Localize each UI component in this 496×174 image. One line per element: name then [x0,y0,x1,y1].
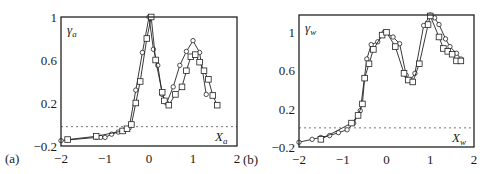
data-point-square [384,29,390,35]
x-tick-label: −1 [336,152,350,167]
x-tick-label: −2 [292,152,306,167]
x-tick-label: 0 [383,152,390,167]
x-tick-label: 1 [427,152,434,167]
data-point-circle [310,137,314,141]
data-point-circle [369,42,373,46]
data-point-circle [365,57,369,61]
data-point-circle [204,92,208,96]
panel-label: (a) [5,151,19,166]
chart-panel-b: 10.60.2−0.2−2−1012γwXw(b) [243,13,477,167]
data-point-square [425,22,431,28]
data-point-square [192,52,198,58]
x-tick-label: 2 [234,151,241,166]
data-point-circle [443,37,447,41]
data-point-square [133,100,139,106]
data-point-circle [134,88,138,92]
y-tick-label: 0.2 [279,102,295,117]
data-point-square [436,34,442,40]
y-axis-label: γw [305,20,316,37]
chart-panel-a: 10.60.2−0.2−2−1012γaXa(a) [5,10,240,166]
x-tick-label: 0 [146,151,153,166]
data-point-square [206,77,212,83]
data-point-square [201,68,207,74]
data-point-circle [184,49,188,53]
data-point-square [371,47,377,53]
data-point-circle [103,135,107,139]
data-point-square [410,79,416,85]
data-point-square [417,61,423,67]
data-point-square [401,71,407,77]
data-point-square [458,58,464,64]
y-tick-label: 0.2 [41,96,57,111]
data-point-circle [437,22,441,26]
data-point-square [427,13,433,19]
data-point-square [184,68,190,74]
data-point-square [214,102,220,108]
x-tick-label: −2 [54,151,68,166]
data-point-square [166,102,172,108]
data-point-circle [171,85,175,89]
data-point-square [449,51,455,57]
data-point-square [65,137,71,143]
y-tick-label: 0.6 [279,63,296,78]
data-point-square [197,59,203,65]
x-tick-label: 2 [471,152,478,167]
data-point-circle [191,38,195,42]
data-point-circle [391,35,395,39]
data-point-square [362,75,368,81]
data-point-square [153,57,159,63]
y-axis-label: γa [67,22,77,39]
data-point-square [159,89,165,95]
x-tick-label: 1 [190,151,197,166]
data-point-circle [448,44,452,48]
data-point-square [179,84,185,90]
data-point-square [144,36,150,42]
y-tick-label: 1 [51,10,58,25]
data-point-square [360,101,366,107]
data-point-circle [178,63,182,67]
data-point-circle [345,128,349,132]
data-point-circle [140,50,144,54]
panel-label: (b) [243,152,258,167]
data-point-square [137,79,143,85]
data-point-square [318,137,324,143]
data-point-square [355,113,361,119]
data-point-square [366,61,372,67]
y-tick-label: 0.6 [41,53,58,68]
x-axis-label: Xw [451,130,466,147]
data-point-square [129,122,135,128]
figure: 10.60.2−0.2−2−1012γaXa(a) 10.60.2−0.2−2−… [0,0,496,174]
y-tick-label: 1 [289,25,296,40]
data-point-square [93,134,99,140]
x-axis-label: Xa [214,129,228,146]
data-point-square [210,93,216,99]
data-point-square [392,44,398,50]
x-tick-label: −1 [98,151,112,166]
data-point-square [173,92,179,98]
data-point-square [349,120,355,126]
